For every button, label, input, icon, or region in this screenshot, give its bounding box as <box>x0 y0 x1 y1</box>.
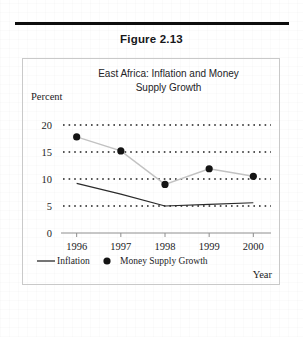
x-tick-labels-group: 19961997199819992000 <box>66 241 264 252</box>
legend-group: InflationMoney Supply Growth <box>37 256 208 266</box>
legend-label-money-supply-growth: Money Supply Growth <box>120 256 208 266</box>
data-point-marker <box>250 173 257 180</box>
chart-frame: East Africa: Inflation and Money Supply … <box>22 58 280 285</box>
y-tick-label: 0 <box>47 228 52 239</box>
y-tick-label: 10 <box>42 174 53 185</box>
x-tick-label: 1997 <box>110 241 131 252</box>
y-tick-label: 15 <box>42 147 53 158</box>
header-rule <box>15 22 289 25</box>
money-supply-connector-line <box>77 137 254 185</box>
money-supply-series-markers <box>73 133 257 188</box>
legend-label-inflation: Inflation <box>57 256 90 266</box>
y-tick-labels-group: 05101520 <box>42 120 53 239</box>
money-supply-connector <box>77 137 254 185</box>
data-point-marker <box>206 165 213 172</box>
x-tick-label: 1999 <box>199 241 220 252</box>
gridlines-group <box>63 125 271 206</box>
y-tick-label: 20 <box>42 120 53 131</box>
data-point-marker <box>73 133 80 140</box>
x-tick-label: 1998 <box>155 241 176 252</box>
x-axis-group <box>61 233 271 237</box>
data-point-marker <box>117 147 124 154</box>
x-tick-label: 2000 <box>243 241 264 252</box>
figure-number-title: Figure 2.13 <box>0 33 303 45</box>
y-tick-label: 5 <box>47 201 52 212</box>
data-point-marker <box>161 181 168 188</box>
legend-dot-swatch <box>103 257 110 264</box>
x-tick-label: 1996 <box>66 241 87 252</box>
plot-area: 05101520 19961997199819992000 InflationM… <box>23 59 281 286</box>
